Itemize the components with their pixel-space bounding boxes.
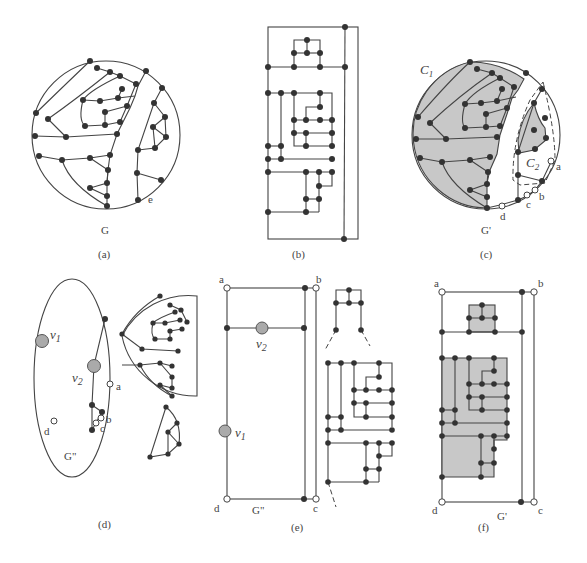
terminal-label-b: b — [316, 273, 322, 285]
terminal-label-c: c — [313, 502, 318, 514]
terminal-label-b: b — [538, 277, 544, 289]
caption-d: (d) — [98, 518, 111, 531]
caption-e: (e) — [291, 521, 304, 534]
region-label-C2: C2 — [526, 155, 540, 172]
vertex-label-v1: v1 — [235, 425, 246, 442]
panel-b: (b) — [265, 24, 358, 261]
edge-label-e: e — [148, 193, 153, 205]
terminal-label-a: a — [219, 273, 224, 285]
terminal-label-d: d — [44, 425, 50, 437]
panel-c: C1 C2 a b c d G' (c) — [412, 59, 561, 261]
terminal-label-d: d — [432, 504, 438, 516]
panel-a: e G (a) — [32, 58, 180, 261]
terminal-label-c: c — [538, 504, 543, 516]
caption-c: (c) — [480, 248, 493, 261]
terminal-label-a: a — [556, 160, 561, 172]
panel-d: v1 v2 a b c d G" (d) — [34, 279, 197, 531]
vertex-label-v2: v2 — [256, 336, 267, 353]
region-label-C1: C1 — [420, 62, 433, 79]
terminal-label-b: b — [539, 190, 545, 202]
graph-label-G: G — [101, 224, 109, 236]
panel-e: a b c d v2 v1 G" (e) — [214, 273, 395, 534]
terminal-label-b: b — [106, 413, 112, 425]
vertex-label-v2: v2 — [72, 370, 83, 387]
terminal-label-a: a — [116, 380, 121, 392]
graph-label-Gdouble: G" — [64, 450, 76, 462]
graph-label-Gprime: G' — [497, 510, 507, 522]
caption-b: (b) — [292, 248, 305, 261]
terminal-label-c: c — [526, 198, 531, 210]
graph-label-Gprime: G' — [481, 224, 491, 236]
terminal-label-d: d — [214, 502, 220, 514]
caption-a: (a) — [98, 248, 111, 261]
terminal-label-a: a — [434, 277, 439, 289]
terminal-label-c: c — [100, 422, 105, 434]
figure-canvas: e G (a) — [0, 0, 587, 563]
vertex-label-v1: v1 — [50, 327, 61, 344]
terminal-label-d: d — [500, 210, 506, 222]
caption-f: (f) — [478, 521, 489, 534]
graph-label-Gdouble: G" — [252, 504, 264, 516]
panel-f: a b c d G' (f) — [432, 277, 544, 534]
